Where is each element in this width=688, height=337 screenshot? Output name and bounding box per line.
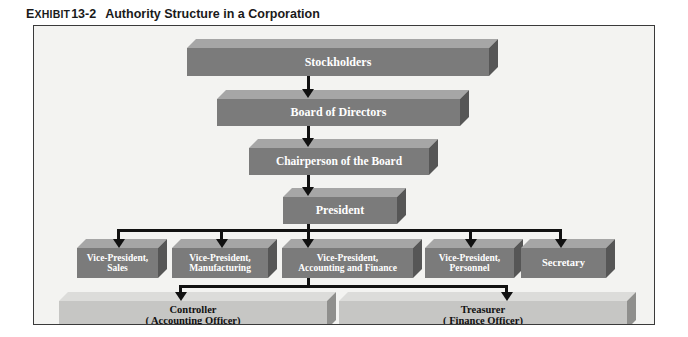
node-vp-personnel: Vice-President, Personnel (425, 248, 514, 278)
exhibit-title: Authority Structure in a Corporation (105, 7, 320, 21)
arrowhead-chairperson (302, 138, 314, 147)
block-top-bevel (187, 39, 498, 48)
node-treasurer: Treasurer ( Finance Officer) (339, 301, 627, 325)
arrowhead-controller (175, 292, 187, 301)
arrowhead-secretary (555, 239, 567, 248)
node-vp-manufacturing: Vice-President, Manufacturing (172, 248, 268, 278)
node-vp-manufacturing-line1: Vice-President, (189, 253, 250, 263)
exhibit-label: EXHIBIT (26, 8, 70, 20)
node-vp-accounting-finance: Vice-President, Accounting and Finance (282, 248, 413, 278)
node-stockholders-label: Stockholders (187, 48, 489, 76)
node-vp-personnel-label: Vice-President, Personnel (425, 248, 514, 278)
node-controller: Controller ( Accounting Officer) (59, 301, 327, 325)
block-right-bevel (606, 239, 615, 278)
org-chart-canvas: Stockholders Board of Directors Chairper… (34, 26, 654, 324)
node-secretary-label: Secretary (521, 248, 606, 278)
node-treasurer-label: Treasurer ( Finance Officer) (339, 301, 627, 325)
node-treasurer-line1: Treasurer (461, 304, 505, 315)
node-chairperson: Chairperson of the Board (249, 148, 429, 175)
arrowhead-board (302, 89, 314, 98)
connector-president-bus (117, 229, 562, 232)
node-board-of-directors: Board of Directors (217, 99, 460, 126)
node-vp-sales-line2: Sales (107, 263, 128, 273)
block-top-bevel (249, 139, 438, 148)
node-vp-manufacturing-label: Vice-President, Manufacturing (172, 248, 268, 278)
exhibit-caption: EXHIBIT13-2Authority Structure in a Corp… (26, 4, 320, 22)
arrowhead-treasurer (501, 292, 513, 301)
node-vp-personnel-line1: Vice-President, (439, 253, 500, 263)
arrowhead-vp-accounting (302, 239, 314, 248)
node-president: President (283, 197, 397, 224)
node-chairperson-label: Chairperson of the Board (249, 148, 429, 175)
node-vp-sales: Vice-President, Sales (77, 248, 158, 278)
exhibit-label-lead: E (26, 7, 35, 21)
arrowhead-president (302, 187, 314, 196)
node-vp-sales-line1: Vice-President, (87, 253, 148, 263)
block-top-bevel (217, 90, 469, 99)
arrowhead-vp-manufacturing (216, 239, 228, 248)
diagram-frame: Stockholders Board of Directors Chairper… (33, 25, 655, 325)
block-right-bevel (413, 239, 422, 278)
node-vp-personnel-line2: Personnel (449, 263, 489, 273)
node-vp-accounting-finance-label: Vice-President, Accounting and Finance (282, 248, 413, 278)
node-board-of-directors-label: Board of Directors (217, 99, 460, 126)
connector-officers-bus (179, 285, 508, 288)
exhibit-number: 13-2 (71, 7, 96, 21)
node-president-label: President (283, 197, 397, 224)
block-top-bevel (59, 292, 336, 301)
block-top-bevel (339, 292, 636, 301)
node-secretary: Secretary (521, 248, 606, 278)
node-treasurer-line2: ( Finance Officer) (443, 315, 523, 325)
node-vp-accounting-finance-line2: Accounting and Finance (298, 263, 397, 273)
node-vp-manufacturing-line2: Manufacturing (189, 263, 251, 273)
node-stockholders: Stockholders (187, 48, 489, 76)
node-vp-accounting-finance-line1: Vice-President, (317, 253, 378, 263)
block-right-bevel (158, 239, 167, 278)
node-controller-line2: ( Accounting Officer) (145, 315, 240, 325)
node-controller-line1: Controller (169, 304, 216, 315)
block-top-bevel (521, 239, 615, 248)
block-right-bevel (268, 239, 277, 278)
arrowhead-vp-sales (113, 239, 125, 248)
node-vp-sales-label: Vice-President, Sales (77, 248, 158, 278)
arrowhead-vp-personnel (465, 239, 477, 248)
exhibit-label-rest: XHIBIT (35, 8, 71, 20)
node-controller-label: Controller ( Accounting Officer) (59, 301, 327, 325)
